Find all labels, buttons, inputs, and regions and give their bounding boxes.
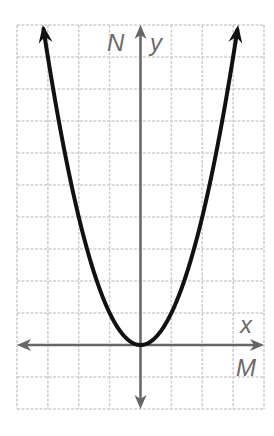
axis-label-n: N — [107, 29, 125, 56]
parabola-graph: N y x M — [0, 0, 274, 436]
axis-label-y: y — [148, 29, 164, 56]
axis-label-x: x — [239, 311, 253, 338]
axis-label-m: M — [236, 354, 256, 381]
